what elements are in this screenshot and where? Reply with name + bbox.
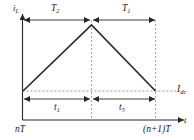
y-axis-label: iL: [13, 4, 19, 13]
waveform-canvas: [0, 0, 194, 140]
label-t1: t1: [54, 103, 60, 113]
x-axis-label: t: [184, 116, 187, 125]
inductor-current-waveform: [23, 25, 156, 91]
label-T2: T2: [51, 4, 60, 14]
label-T1: T1: [122, 4, 131, 14]
x-axis-start-label: nT: [15, 125, 25, 135]
x-axis-end-label: (n+1)T: [143, 125, 171, 135]
label-Idc: Idc: [177, 85, 186, 95]
label-t5: t5: [119, 103, 125, 113]
waveform-figure: iL T2 T1 Idc t1 t5 t nT (n+1)T: [0, 0, 194, 140]
